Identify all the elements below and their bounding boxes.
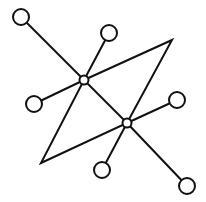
hub-node-hub-b — [123, 119, 132, 128]
edge-leaf-top-left — [21, 17, 84, 80]
circle-node-leaf-left — [26, 96, 42, 112]
circle-node-leaf-top — [101, 25, 117, 41]
hub-link-edge — [84, 80, 127, 123]
circle-node-leaf-top-left — [13, 9, 29, 25]
hub-node-hub-a — [80, 76, 89, 85]
edge-leaf-bottom-right — [127, 123, 187, 186]
circle-node-leaf-bottom-right — [179, 178, 195, 194]
graph-diagram — [0, 0, 206, 202]
circle-node-leaf-bottom — [94, 162, 110, 178]
circle-node-leaf-right — [169, 92, 185, 108]
